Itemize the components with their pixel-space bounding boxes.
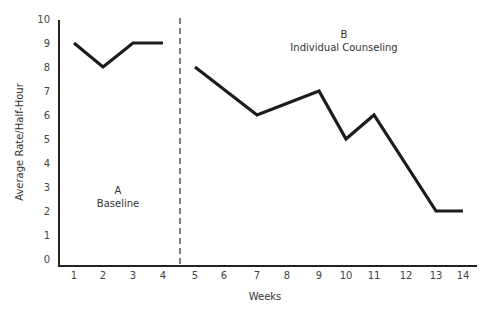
x-tick-label: 6 (221, 270, 227, 281)
data-lines (74, 43, 463, 211)
x-tick-label: 12 (400, 270, 413, 281)
series-line (195, 67, 463, 211)
y-tick-label: 3 (44, 182, 50, 193)
phase-b-letter: B (341, 29, 348, 40)
phase-a-name: Baseline (97, 198, 139, 209)
y-axis-ticks: 012345678910 (37, 14, 50, 265)
phase-a-letter: A (115, 185, 122, 196)
y-tick-label: 0 (44, 254, 50, 265)
y-tick-label: 7 (44, 86, 50, 97)
x-tick-label: 9 (316, 270, 322, 281)
x-tick-label: 10 (340, 270, 353, 281)
y-tick-label: 4 (44, 158, 50, 169)
y-tick-label: 10 (37, 14, 50, 25)
x-tick-label: 5 (192, 270, 198, 281)
y-tick-label: 2 (44, 206, 50, 217)
x-axis-label: Weeks (249, 291, 282, 302)
line-chart: 012345678910 1234567891011121314 A Basel… (0, 0, 492, 310)
x-tick-label: 13 (430, 270, 443, 281)
x-tick-label: 4 (160, 270, 166, 281)
x-tick-label: 8 (284, 270, 290, 281)
y-tick-label: 1 (44, 230, 50, 241)
y-axis-label: Average Rate/Half-Hour (14, 82, 25, 201)
x-tick-label: 7 (254, 270, 260, 281)
x-tick-label: 2 (100, 270, 106, 281)
x-tick-label: 14 (457, 270, 470, 281)
series-line (74, 43, 163, 67)
x-tick-label: 1 (71, 270, 77, 281)
y-tick-label: 8 (44, 62, 50, 73)
phase-b-name: Individual Counseling (290, 42, 397, 53)
x-axis-ticks: 1234567891011121314 (71, 270, 470, 281)
x-tick-label: 3 (130, 270, 136, 281)
y-tick-label: 6 (44, 110, 50, 121)
y-tick-label: 9 (44, 38, 50, 49)
y-tick-label: 5 (44, 134, 50, 145)
x-tick-label: 11 (368, 270, 381, 281)
